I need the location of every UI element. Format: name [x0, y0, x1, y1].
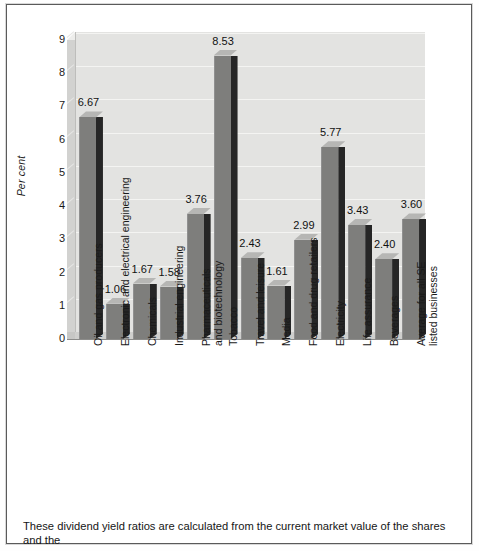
- x-category-label: Chemicals: [147, 297, 159, 346]
- x-axis-category-labels: Oil and gas producersElectronic and elec…: [7, 5, 473, 510]
- x-category-label: Industrial engineering: [174, 246, 186, 346]
- x-category-label: Food and drug retailers: [308, 237, 320, 346]
- x-category-label-line: Pharmaceuticals: [201, 261, 213, 346]
- x-category-label-line: Food and drug retailers: [308, 237, 320, 346]
- x-category-label: Oil and gas producers: [93, 243, 105, 346]
- x-category-label-line: Average for all SE: [416, 262, 428, 346]
- x-category-label-line: Life assurance: [362, 278, 374, 346]
- x-category-label-line: Chemicals: [147, 297, 159, 346]
- x-category-label: Average for all SElisted businesses: [416, 262, 439, 346]
- x-category-label-line: Electronic and electrical engineering: [120, 177, 132, 346]
- x-category-label: Pharmaceuticalsand biotechnology: [201, 261, 224, 346]
- figure-caption: These dividend yield ratios are calculat…: [23, 519, 461, 547]
- x-category-label: Media: [281, 317, 293, 346]
- x-category-label: Travel and leisure: [255, 263, 267, 346]
- x-category-label-line: Beverages: [389, 296, 401, 346]
- scanned-page: 0123456789 Per cent 6.671.061.671.583.76…: [0, 0, 479, 551]
- x-category-label-line: Travel and leisure: [255, 263, 267, 346]
- x-category-label: Electronic and electrical engineering: [120, 177, 132, 346]
- x-category-label-line: and biotechnology: [212, 261, 224, 346]
- bar-chart: 0123456789 Per cent 6.671.061.671.583.76…: [7, 5, 473, 510]
- x-category-label: Electricity: [335, 301, 347, 346]
- x-category-label: Life assurance: [362, 278, 374, 346]
- x-category-label-line: Media: [281, 317, 293, 346]
- x-category-label-line: Electricity: [335, 301, 347, 346]
- x-category-label: Tobacco: [228, 307, 240, 346]
- figure-frame: 0123456789 Per cent 6.671.061.671.583.76…: [6, 4, 472, 544]
- x-category-label-line: listed businesses: [428, 262, 440, 346]
- x-category-label-line: Industrial engineering: [174, 246, 186, 346]
- x-category-label-line: Tobacco: [228, 307, 240, 346]
- x-category-label-line: Oil and gas producers: [93, 243, 105, 346]
- x-category-label: Beverages: [389, 296, 401, 346]
